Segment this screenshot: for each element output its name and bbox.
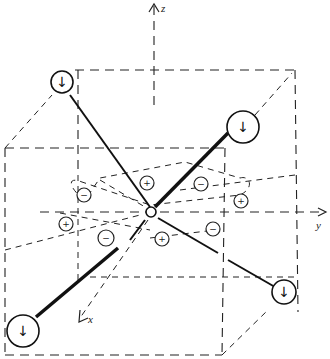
ligand-top-right: ↓: [227, 111, 259, 143]
charge-minus-top-right: −: [194, 177, 208, 191]
y-axis-label: y: [315, 219, 321, 231]
orbital-loop: [71, 162, 249, 205]
svg-text:−: −: [197, 179, 205, 189]
svg-text:−: −: [102, 233, 110, 243]
charge-plus-right: +: [234, 194, 248, 208]
charge-minus-bottom-left: −: [98, 230, 114, 246]
ligand-bottom-left: ↓: [7, 315, 39, 347]
charge-plus-top: +: [140, 176, 154, 190]
y-axis: y: [40, 208, 326, 231]
edge-br: [222, 310, 268, 355]
spin-down-icon: ↓: [278, 284, 290, 300]
bond-bottom-right-b: [228, 260, 275, 287]
ligand-bottom-right: ↓: [272, 280, 296, 304]
bond-top-right: [155, 133, 228, 207]
svg-text:+: +: [158, 234, 166, 244]
svg-text:+: +: [237, 196, 245, 206]
charge-plus-bottom: +: [155, 232, 169, 246]
spin-down-icon: ↓: [237, 119, 249, 135]
spin-down-icon: ↓: [17, 323, 29, 339]
ligand-top-left: ↓: [51, 71, 73, 93]
svg-text:−: −: [80, 190, 88, 200]
back-cube: [75, 70, 298, 312]
charge-minus-bottom-right: −: [206, 222, 220, 236]
z-axis-label: z: [160, 2, 166, 14]
x-axis-label: x: [87, 313, 93, 325]
bond-center-stub: [130, 220, 145, 240]
charge-plus-far-left: +: [59, 217, 73, 231]
charge-minus-left: −: [77, 188, 91, 202]
octahedral-diagram: z y x ↓ ↓ ↓ ↓ + −: [0, 0, 330, 359]
z-axis: z: [149, 2, 166, 108]
edge-tl: [5, 95, 52, 148]
svg-text:−: −: [209, 224, 217, 234]
bond-bottom-left: [36, 248, 118, 317]
edge-tr: [255, 73, 292, 115]
svg-text:+: +: [62, 219, 70, 229]
spin-down-icon: ↓: [56, 74, 68, 90]
central-atom: [146, 207, 156, 217]
svg-text:+: +: [143, 178, 151, 188]
